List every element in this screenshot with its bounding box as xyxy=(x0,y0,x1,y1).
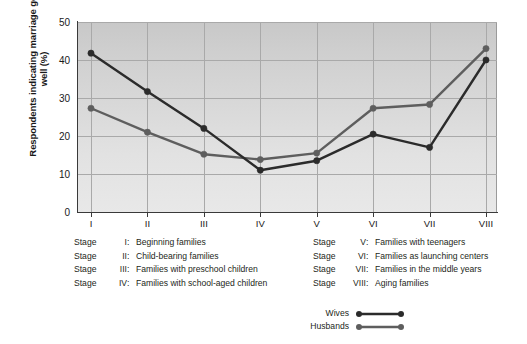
y-axis-tick-label: 10 xyxy=(46,169,70,180)
stage-key-word: Stage xyxy=(313,250,341,264)
legend-label: Husbands xyxy=(310,320,349,333)
x-axis-tick-mark xyxy=(486,213,487,217)
stage-key-description: Aging families xyxy=(371,277,429,291)
data-point xyxy=(144,129,150,135)
stage-key-description: Child-bearing families xyxy=(132,250,219,264)
y-axis-tick-label: 0 xyxy=(46,207,70,218)
stage-key-description: Families with preschool children xyxy=(132,263,258,277)
stage-key-numeral: III xyxy=(102,263,127,277)
stage-key-description: Families with teenagers xyxy=(371,236,465,250)
stage-key-description: Beginning families xyxy=(132,236,206,250)
stage-key-row: StageIV:Families with school-aged childr… xyxy=(74,277,314,291)
x-axis-tick-label: I xyxy=(71,218,111,229)
x-axis-line xyxy=(77,212,498,213)
x-axis-tick-mark xyxy=(373,213,374,217)
legend-line-swatch xyxy=(354,310,406,318)
x-axis-tick-label: VI xyxy=(353,218,393,229)
stage-key-numeral: IV xyxy=(102,277,127,291)
stage-key-description: Families in the middle years xyxy=(371,263,482,277)
stage-key-row: StageVII:Families in the middle years xyxy=(313,263,527,277)
stage-key-numeral: VIII xyxy=(341,277,366,291)
stage-key-row: StageVIII:Aging families xyxy=(313,277,527,291)
data-series-layer xyxy=(78,22,497,212)
data-point xyxy=(483,46,489,52)
data-point xyxy=(426,144,432,150)
x-axis-tick-mark xyxy=(317,213,318,217)
data-point xyxy=(88,50,94,56)
stage-key-numeral: I xyxy=(102,236,127,250)
stage-key-word: Stage xyxy=(74,250,102,264)
data-point xyxy=(201,151,207,157)
data-point xyxy=(201,125,207,131)
x-axis-tick-mark xyxy=(430,213,431,217)
data-point xyxy=(314,158,320,164)
stage-key-word: Stage xyxy=(313,236,341,250)
data-point xyxy=(314,150,320,156)
data-point xyxy=(483,57,489,63)
stage-key-word: Stage xyxy=(313,277,341,291)
chart-figure: Respondents indicating marriage going we… xyxy=(0,0,527,344)
x-axis-tick-mark xyxy=(260,213,261,217)
legend-label: Wives xyxy=(326,307,349,320)
stage-key-description: Families with school-aged children xyxy=(132,277,267,291)
stage-key-description: Families as launching centers xyxy=(371,250,488,264)
y-axis-tick-label: 40 xyxy=(46,55,70,66)
x-axis-tick-label: II xyxy=(127,218,167,229)
stage-key-row: StageIII:Families with preschool childre… xyxy=(74,263,314,277)
x-axis-tick-label: VII xyxy=(410,218,450,229)
x-axis-tick-label: IV xyxy=(240,218,280,229)
stage-key-word: Stage xyxy=(74,263,102,277)
stage-key-word: Stage xyxy=(74,277,102,291)
x-axis-tick-mark xyxy=(91,213,92,217)
data-point xyxy=(257,156,263,162)
stage-key-word: Stage xyxy=(74,236,102,250)
plot-area xyxy=(78,22,497,212)
stage-key-numeral: II xyxy=(102,250,127,264)
stage-key-row: StageVI:Families as launching centers xyxy=(313,250,527,264)
data-point xyxy=(88,105,94,111)
x-axis-tick-mark xyxy=(147,213,148,217)
y-axis-tick-label: 50 xyxy=(46,17,70,28)
data-point xyxy=(257,167,263,173)
series-line-wives xyxy=(91,53,486,170)
stage-key-left-column: StageI:Beginning familiesStageII:Child-b… xyxy=(74,236,314,290)
y-axis-line xyxy=(77,21,78,213)
x-axis-tick-mark xyxy=(204,213,205,217)
y-axis-tick-label: 20 xyxy=(46,131,70,142)
data-point xyxy=(426,101,432,107)
stage-key-row: StageV:Families with teenagers xyxy=(313,236,527,250)
x-axis-tick-label: V xyxy=(297,218,337,229)
legend-line-swatch xyxy=(354,323,406,331)
x-axis-tick-label: III xyxy=(184,218,224,229)
data-point xyxy=(144,88,150,94)
stage-key-numeral: V xyxy=(341,236,366,250)
stage-key-numeral: VI xyxy=(341,250,366,264)
y-axis-tick-label: 30 xyxy=(46,93,70,104)
data-point xyxy=(370,105,376,111)
x-axis-tick-label: VIII xyxy=(466,218,506,229)
stage-key-word: Stage xyxy=(313,263,341,277)
data-point xyxy=(370,131,376,137)
stage-key-right-column: StageV:Families with teenagersStageVI:Fa… xyxy=(313,236,527,290)
stage-key-numeral: VII xyxy=(341,263,366,277)
stage-key-row: StageI:Beginning families xyxy=(74,236,314,250)
stage-key-row: StageII:Child-bearing families xyxy=(74,250,314,264)
